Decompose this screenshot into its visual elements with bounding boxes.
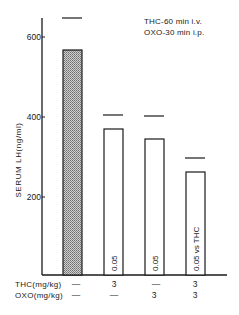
dose-thc-oxo: — [152, 279, 161, 289]
dose-oxo-control: — [72, 290, 81, 300]
y-tick-label-600: 600 [27, 32, 41, 42]
row-label-oxo: OXO(mg/kg) [15, 291, 63, 300]
bar-oxo [145, 139, 164, 275]
y-tick-label-200: 200 [27, 192, 41, 202]
bar-thc [104, 129, 123, 275]
y-axis-label: SERUM LH(ng/ml) [14, 122, 23, 197]
dose-thc-thc: 3 [112, 279, 117, 289]
legend-line-thc: THC-60 min i.v. [144, 17, 202, 26]
bar-control [63, 50, 82, 275]
y-tick-label-400: 400 [27, 112, 41, 122]
dose-oxo-combo: 3 [193, 290, 198, 300]
dose-oxo-thc: — [110, 290, 119, 300]
bar-chart: 600 400 200 SERUM LH(ng/ml) THC-60 min i… [0, 0, 239, 315]
bar-thc-pvalue: 0.05 [110, 255, 119, 271]
dose-thc-control: — [72, 279, 81, 289]
row-label-thc: THC(mg/kg) [15, 280, 62, 289]
dose-oxo-oxo: 3 [152, 290, 157, 300]
legend-line-oxo: OXO-30 min i.p. [144, 28, 204, 37]
bar-oxo-pvalue: 0.05 [151, 255, 160, 271]
bar-thc-oxo-pvalue: 0.05 vs THC [192, 226, 201, 271]
dose-thc-combo: 3 [193, 279, 198, 289]
